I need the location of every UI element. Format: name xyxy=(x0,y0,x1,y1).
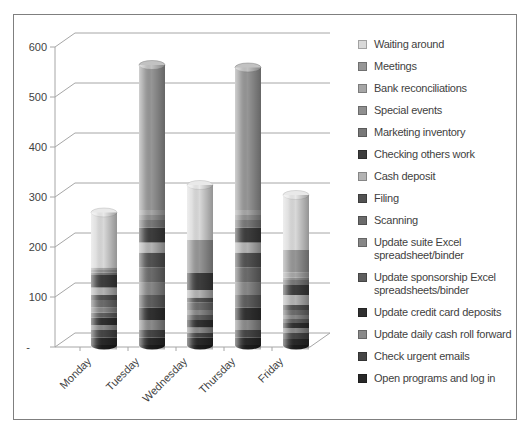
y-axis-tick-label: 400 xyxy=(29,141,47,153)
legend-item: Scanning xyxy=(358,214,516,227)
legend-item-label: Scanning xyxy=(374,214,516,227)
legend-item-label: Update sponsorship Excel spreadsheets/bi… xyxy=(374,271,516,297)
legend-item: Filing xyxy=(358,192,516,205)
legend-item-label: Checking others work xyxy=(374,148,516,161)
legend-swatch-icon xyxy=(358,352,367,361)
legend-swatch-icon xyxy=(358,374,367,383)
y-axis-tick-label: 500 xyxy=(29,91,47,103)
legend-item: Cash deposit xyxy=(358,170,516,183)
y-axis-tick-label: 300 xyxy=(29,191,47,203)
legend-item-label: Update daily cash roll forward xyxy=(374,328,516,341)
legend-item-label: Waiting around xyxy=(374,38,516,51)
legend-item: Checking others work xyxy=(358,148,516,161)
legend-item: Bank reconciliations xyxy=(358,82,516,95)
legend-item-label: Meetings xyxy=(374,60,516,73)
legend-swatch-icon xyxy=(358,106,367,115)
legend-item: Update suite Excel spreadsheet/binder xyxy=(358,236,516,262)
legend-swatch-icon xyxy=(358,238,367,247)
y-axis-tick-label: 600 xyxy=(29,41,47,53)
legend-item-label: Update suite Excel spreadsheet/binder xyxy=(374,236,516,262)
legend-item-label: Marketing inventory xyxy=(374,126,516,139)
legend-swatch-icon xyxy=(358,150,367,159)
legend-swatch-icon xyxy=(358,308,367,317)
legend-item-label: Special events xyxy=(374,104,516,117)
legend-item: Check urgent emails xyxy=(358,350,516,363)
legend-item: Waiting around xyxy=(358,38,516,51)
legend-swatch-icon xyxy=(358,216,367,225)
legend-item: Update daily cash roll forward xyxy=(358,328,516,341)
legend-swatch-icon xyxy=(358,62,367,71)
legend-item: Update credit card deposits xyxy=(358,306,516,319)
legend-swatch-icon xyxy=(358,172,367,181)
legend-item: Update sponsorship Excel spreadsheets/bi… xyxy=(358,271,516,297)
chart-legend: Waiting aroundMeetingsBank reconciliatio… xyxy=(358,38,516,394)
legend-item: Open programs and log in xyxy=(358,372,516,385)
y-axis-tick-label: 100 xyxy=(29,291,47,303)
legend-swatch-icon xyxy=(358,84,367,93)
x-axis-category-label: Wednesday xyxy=(140,355,190,405)
legend-item: Special events xyxy=(358,104,516,117)
legend-item-label: Check urgent emails xyxy=(374,350,516,363)
legend-item-label: Open programs and log in xyxy=(374,372,516,385)
y-axis-tick-label: 200 xyxy=(29,241,47,253)
legend-item-label: Filing xyxy=(374,192,516,205)
legend-swatch-icon xyxy=(358,330,367,339)
x-axis-category-label: Monday xyxy=(57,355,94,392)
legend-item: Meetings xyxy=(358,60,516,73)
legend-swatch-icon xyxy=(358,194,367,203)
legend-swatch-icon xyxy=(358,273,367,282)
y-axis-tick-label: - xyxy=(26,341,30,353)
x-axis-category-label: Friday xyxy=(255,355,285,385)
legend-swatch-icon xyxy=(358,40,367,49)
x-axis-category-label: Tuesday xyxy=(103,355,141,393)
x-axis-category-label: Thursday xyxy=(197,355,238,396)
legend-swatch-icon xyxy=(358,128,367,137)
legend-item-label: Bank reconciliations xyxy=(374,82,516,95)
legend-item: Marketing inventory xyxy=(358,126,516,139)
legend-item-label: Update credit card deposits xyxy=(374,306,516,319)
legend-item-label: Cash deposit xyxy=(374,170,516,183)
